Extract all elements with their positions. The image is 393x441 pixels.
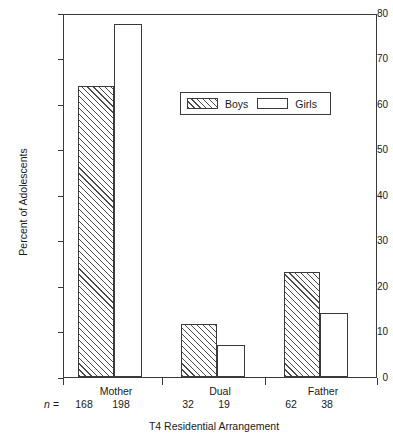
legend-label-boys: Boys [225, 98, 248, 110]
y-axis-title: Percent of Adolescents [17, 127, 29, 277]
legend-label-girls: Girls [295, 98, 317, 110]
legend-swatch-boys-icon [187, 98, 218, 109]
n-value-father-boys: 62 [271, 398, 311, 410]
legend-swatch-girls-icon [257, 98, 288, 109]
n-value-father-girls: 38 [307, 398, 347, 410]
n-value-dual-girls: 19 [204, 398, 244, 410]
bar-father-girls [320, 313, 348, 377]
x-tick-mark-right [377, 378, 378, 385]
n-prefix-label: n = [44, 398, 59, 410]
x-group-label-father: Father [283, 385, 363, 397]
bar-dual-boys [181, 324, 217, 377]
bar-father-boys [284, 272, 320, 377]
n-value-mother-girls: 198 [101, 398, 141, 410]
bar-mother-boys [78, 86, 114, 377]
x-tick-mark-2 [265, 378, 266, 385]
n-value-mother-boys: 168 [64, 398, 104, 410]
bar-dual-girls [217, 345, 245, 377]
x-axis-title: T4 Residential Arrangement [0, 420, 393, 432]
x-group-label-mother: Mother [76, 385, 156, 397]
x-group-label-dual: Dual [180, 385, 260, 397]
n-value-dual-boys: 32 [168, 398, 208, 410]
bar-mother-girls [114, 24, 142, 377]
plot-area: Boys Girls [63, 14, 377, 378]
x-tick-mark-1 [162, 378, 163, 385]
legend: Boys Girls [180, 92, 331, 115]
x-tick-mark-left [63, 378, 64, 385]
